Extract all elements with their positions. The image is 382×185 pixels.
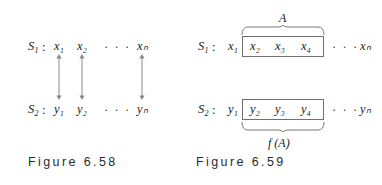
ellipsis-top: · · · bbox=[332, 40, 359, 55]
element-y2-boxed: y₂ bbox=[250, 103, 260, 116]
element-xn-outside: xₙ bbox=[360, 40, 371, 53]
set-separator-s1: : bbox=[42, 40, 45, 55]
subset-label-a: A bbox=[279, 12, 286, 24]
set-separator-s2: : bbox=[42, 103, 45, 118]
element-y2: y₂ bbox=[77, 103, 87, 116]
element-y4-boxed: y₄ bbox=[301, 103, 311, 116]
element-y1: y₁ bbox=[54, 103, 64, 116]
figure-6-58: S1 : x₁ x₂ · · · xₙ S2 : y₁ y₂ · · · yₙ … bbox=[0, 0, 191, 185]
ellipsis-bottom: · · · bbox=[104, 103, 131, 118]
set-label-s2: S2 bbox=[198, 103, 208, 116]
element-y1-outside: y₁ bbox=[228, 103, 238, 116]
element-yn-outside: yₙ bbox=[360, 103, 371, 116]
set-label-s1: S1 bbox=[198, 40, 208, 53]
element-x3-boxed: x₃ bbox=[275, 40, 285, 53]
figure-caption: Figure 6.59 bbox=[196, 155, 286, 169]
correspondence-arrow-1 bbox=[54, 52, 66, 102]
image-label-fa: f (A) bbox=[268, 137, 290, 149]
element-x2: x₂ bbox=[77, 40, 87, 53]
set-separator-s2: : bbox=[212, 103, 215, 118]
element-x2-boxed: x₂ bbox=[250, 40, 260, 53]
figure-6-59: A S1 : x₁ x₂ x₃ x₄ · · · xₙ S2 : y₁ y₂ y… bbox=[191, 0, 382, 185]
correspondence-arrow-n bbox=[137, 52, 149, 102]
element-yn: yₙ bbox=[137, 103, 148, 116]
figure-caption: Figure 6.58 bbox=[28, 155, 118, 169]
ellipsis-top: · · · bbox=[104, 40, 131, 55]
ellipsis-bottom: · · · bbox=[332, 103, 359, 118]
set-label-s1: S1 bbox=[28, 40, 38, 53]
element-y3-boxed: y₃ bbox=[275, 103, 285, 116]
set-separator-s1: : bbox=[212, 40, 215, 55]
element-xn: xₙ bbox=[137, 40, 148, 53]
element-x4-boxed: x₄ bbox=[301, 40, 311, 53]
element-x1-outside: x₁ bbox=[228, 40, 238, 53]
top-brace bbox=[241, 25, 325, 36]
bottom-brace bbox=[241, 122, 325, 133]
element-x1: x₁ bbox=[54, 40, 64, 53]
correspondence-arrow-2 bbox=[77, 52, 89, 102]
set-label-s2: S2 bbox=[28, 103, 38, 116]
